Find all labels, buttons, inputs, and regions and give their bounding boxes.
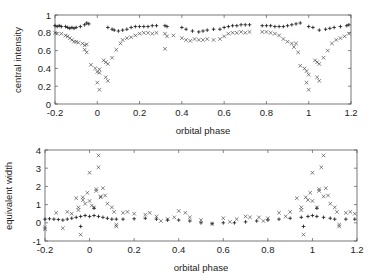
cross-marker	[94, 187, 98, 191]
plot-frame	[55, 15, 351, 104]
cross-marker	[284, 215, 288, 219]
y-tick-label: 0.2	[38, 81, 51, 92]
cross-marker	[302, 233, 306, 237]
cross-marker	[311, 199, 315, 203]
plus-marker	[302, 225, 306, 229]
plus-marker	[201, 29, 205, 33]
cross-marker	[81, 198, 85, 202]
cross-marker	[317, 187, 321, 191]
cross-marker	[193, 37, 197, 41]
plus-marker	[328, 216, 332, 220]
data-points	[53, 21, 350, 91]
cross-marker	[260, 30, 264, 34]
cross-marker	[129, 35, 133, 39]
cross-marker	[146, 31, 150, 35]
cross-marker	[218, 37, 222, 41]
plus-marker	[266, 218, 270, 222]
plus-marker	[150, 24, 154, 28]
cross-marker	[115, 225, 119, 229]
cross-marker	[180, 36, 184, 40]
cross-marker	[88, 199, 92, 203]
cross-marker	[121, 211, 125, 215]
cross-marker	[112, 210, 116, 214]
cross-marker	[326, 194, 330, 198]
plus-marker	[294, 22, 298, 26]
cross-marker	[125, 36, 129, 40]
y-tick-label: 4	[36, 145, 41, 156]
plus-marker	[277, 25, 281, 29]
plus-marker	[61, 218, 65, 222]
x-axis-title: orbital phase	[176, 125, 230, 136]
plus-marker	[138, 25, 142, 29]
plus-marker	[121, 28, 125, 32]
cross-marker	[94, 189, 98, 193]
plus-marker	[282, 25, 286, 29]
cross-marker	[303, 67, 307, 71]
plot-frame	[45, 150, 357, 241]
plus-marker	[311, 214, 315, 218]
y-axis-title: central intensity	[12, 27, 23, 93]
cross-marker	[98, 88, 102, 92]
cross-marker	[212, 38, 216, 42]
cross-marker	[148, 211, 152, 215]
plus-marker	[74, 216, 78, 220]
cross-marker	[106, 79, 110, 83]
plus-marker	[344, 217, 348, 221]
plus-marker	[146, 25, 150, 29]
y-tick-label: 0	[36, 217, 41, 228]
plus-marker	[290, 23, 294, 27]
plus-marker	[265, 24, 269, 28]
plus-marker	[197, 30, 201, 34]
cross-marker	[98, 67, 102, 71]
plus-marker	[277, 217, 281, 221]
x-tick-label: 0.6	[218, 107, 231, 118]
plus-marker	[315, 215, 319, 219]
cross-marker	[205, 37, 209, 41]
cross-marker	[347, 32, 351, 36]
cross-marker	[97, 154, 101, 158]
equivalent-width-plot: -0.200.20.40.60.811.2-101234 orbital pha…	[3, 145, 364, 274]
plus-marker	[106, 216, 110, 220]
plus-marker	[180, 26, 184, 30]
cross-marker	[126, 210, 130, 214]
cross-marker	[322, 56, 326, 60]
x-tick-label: 0.6	[217, 244, 230, 255]
x-tick-label: 1.2	[344, 107, 357, 118]
plus-marker	[324, 27, 328, 31]
cross-marker	[70, 212, 74, 216]
cross-marker	[244, 215, 248, 219]
cross-marker	[155, 31, 159, 35]
cross-marker	[177, 209, 181, 213]
cross-marker	[349, 210, 353, 214]
plus-marker	[273, 25, 277, 29]
plus-marker	[248, 23, 252, 27]
x-tick-label: 0.4	[175, 107, 188, 118]
x-tick-label: 0.2	[133, 107, 146, 118]
cross-marker	[344, 211, 348, 215]
x-axis-title: orbital phase	[174, 262, 228, 273]
cross-marker	[106, 62, 110, 66]
x-tick-label: 1.2	[350, 244, 363, 255]
y-tick-label: 0.6	[38, 45, 51, 56]
plus-marker	[125, 27, 129, 31]
cross-marker	[317, 62, 321, 66]
x-tick-label: 0.4	[172, 244, 185, 255]
cross-marker	[54, 211, 58, 215]
cross-marker	[65, 210, 69, 214]
plus-marker	[134, 25, 138, 29]
cross-marker	[243, 31, 247, 35]
plus-marker	[333, 217, 337, 221]
y-tick-label: 1	[36, 199, 41, 210]
cross-marker	[231, 31, 235, 35]
plus-marker	[177, 218, 181, 222]
cross-marker	[317, 189, 321, 193]
plus-marker	[191, 29, 195, 33]
cross-marker	[294, 42, 298, 46]
cross-marker	[337, 223, 341, 227]
plus-marker	[311, 26, 315, 30]
cross-marker	[299, 208, 303, 212]
y-tick-label: 2	[36, 181, 41, 192]
chart-figure: -0.200.20.40.60.811.200.20.40.60.81 orbi…	[0, 0, 374, 280]
cross-marker	[138, 32, 142, 36]
plus-marker	[106, 26, 110, 30]
